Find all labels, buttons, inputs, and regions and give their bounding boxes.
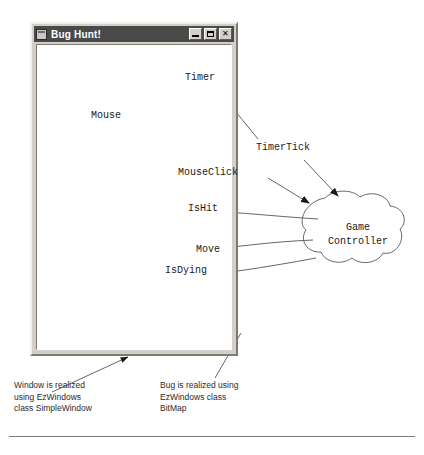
message-label-mouseclick: MouseClick bbox=[178, 167, 238, 178]
close-button[interactable]: ✕ bbox=[219, 28, 232, 40]
footer-divider bbox=[9, 436, 415, 437]
maximize-button[interactable] bbox=[204, 28, 217, 40]
diagram-canvas: Bug Hunt! ✕ Timer Mouse Game Controller … bbox=[0, 0, 424, 455]
maximize-icon bbox=[207, 31, 214, 37]
message-label-timertick: TimerTick bbox=[256, 142, 310, 153]
window-controls: ✕ bbox=[189, 28, 232, 40]
note-bug: Bug is realized using EzWindows class Bi… bbox=[160, 380, 294, 415]
message-label-ishit: IsHit bbox=[188, 203, 218, 214]
cloud-game-controller bbox=[302, 191, 404, 262]
window-title: Bug Hunt! bbox=[51, 29, 189, 40]
arrow-mouseclick-to-controller bbox=[268, 178, 309, 203]
minimize-icon bbox=[192, 35, 199, 37]
note-window: Window is realized using EzWindows class… bbox=[14, 380, 142, 415]
link-timer-to-timertick bbox=[236, 112, 258, 139]
arrow-timertick-to-controller bbox=[304, 160, 338, 196]
bug-label: C++ bbox=[81, 198, 96, 219]
title-bar[interactable]: Bug Hunt! ✕ bbox=[34, 26, 234, 42]
message-label-isdying: IsDying bbox=[165, 265, 207, 276]
bug-object: C++ bbox=[62, 183, 118, 241]
minimize-button[interactable] bbox=[189, 28, 202, 40]
message-label-move: Move bbox=[196, 244, 220, 255]
close-icon: ✕ bbox=[220, 29, 231, 39]
window-icon bbox=[36, 29, 47, 40]
